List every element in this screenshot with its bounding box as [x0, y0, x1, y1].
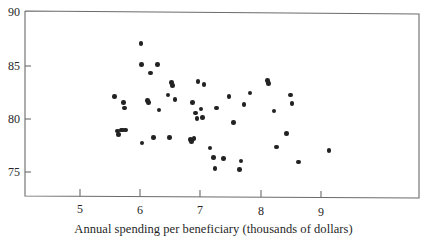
scatter-point — [196, 79, 201, 84]
scatter-point — [157, 108, 162, 113]
scatter-point — [116, 132, 121, 137]
scatter-point — [211, 155, 216, 160]
scatter-plot-figure: 90 85 80 75 5 6 7 8 9 Annual spending pe… — [0, 0, 427, 245]
scatter-point — [155, 62, 160, 67]
scatter-point — [272, 109, 277, 114]
scatter-point — [123, 128, 128, 133]
scatter-point — [151, 135, 156, 140]
scatter-point — [242, 102, 247, 107]
scatter-point — [288, 93, 293, 98]
scatter-point — [167, 135, 172, 140]
scatter-point — [122, 106, 127, 111]
scatter-point — [146, 100, 151, 105]
scatter-point — [202, 82, 207, 87]
scatter-point — [148, 71, 153, 76]
x-axis-caption: Annual spending per beneficiary (thousan… — [0, 222, 427, 237]
scatter-point — [112, 94, 117, 99]
scatter-point — [237, 167, 242, 172]
scatter-point — [199, 107, 204, 112]
scatter-point — [195, 116, 200, 121]
scatter-point — [327, 148, 332, 153]
scatter-point — [200, 115, 205, 120]
scatter-point — [173, 97, 178, 102]
scatter-point — [296, 160, 301, 165]
scatter-point — [140, 141, 145, 146]
scatter-point — [192, 136, 197, 141]
scatter-point — [221, 156, 226, 161]
scatter-point — [284, 131, 289, 136]
scatter-point — [190, 100, 195, 105]
scatter-point — [274, 145, 279, 150]
scatter-point — [214, 106, 219, 111]
scatter-point — [239, 159, 244, 164]
scatter-point — [248, 91, 253, 96]
scatter-point — [290, 101, 295, 106]
scatter-point — [208, 146, 213, 151]
scatter-points-layer — [0, 0, 427, 245]
scatter-point — [139, 41, 144, 46]
scatter-point — [213, 166, 218, 171]
scatter-point — [227, 94, 232, 99]
scatter-point — [266, 81, 271, 86]
scatter-point — [231, 120, 236, 125]
scatter-point — [166, 93, 171, 98]
scatter-point — [139, 62, 144, 67]
scatter-point — [121, 100, 126, 105]
scatter-point — [193, 111, 198, 116]
scatter-point — [170, 83, 175, 88]
